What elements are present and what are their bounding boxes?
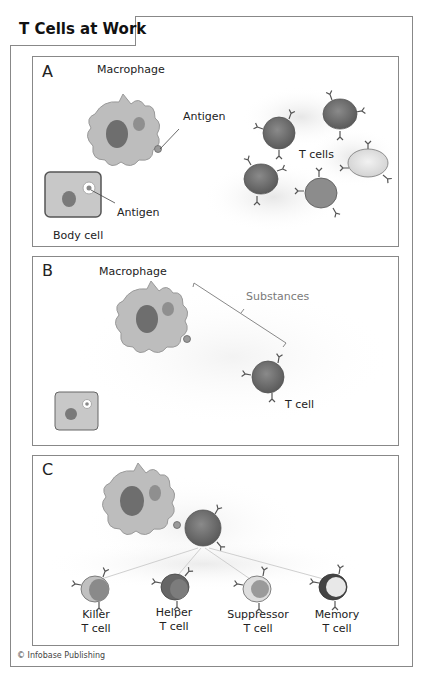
macrophage [87, 94, 161, 166]
panel-letter: A [42, 62, 53, 81]
panel-a: A Macrophage Antigen Antigen Body cell T… [32, 56, 399, 247]
body-cell [55, 392, 98, 430]
suppressor-t-cell-label: Suppressor T cell [221, 608, 295, 636]
panel-letter: C [42, 460, 53, 479]
body-cell-label: Body cell [53, 229, 103, 242]
copyright-credit: © Infobase Publishing [17, 651, 105, 660]
t-cell-label: T cell [285, 398, 314, 411]
macrophage-label: Macrophage [99, 265, 167, 278]
memory-t-cell-label: Memory T cell [309, 608, 365, 636]
panel-letter: B [42, 261, 53, 280]
macrophage [102, 463, 174, 535]
substances-label: Substances [246, 290, 309, 303]
panel-b-illustration [33, 257, 399, 446]
helper-t-cell-label: Helper T cell [149, 606, 199, 634]
panel-b: B Macrophage Substances T cell [32, 256, 399, 446]
body-cell [45, 172, 101, 217]
panel-c: C Killer T cell Helper T cell Suppressor… [32, 455, 399, 646]
panel-a-illustration [33, 57, 399, 247]
killer-t-cell-label: Killer T cell [71, 608, 121, 636]
t-cells-label: T cells [299, 148, 334, 161]
macrophage-label: Macrophage [97, 63, 165, 76]
antigen-label: Antigen [117, 206, 160, 219]
antigen-label: Antigen [183, 110, 226, 123]
figure-title: T Cells at Work [19, 20, 146, 38]
